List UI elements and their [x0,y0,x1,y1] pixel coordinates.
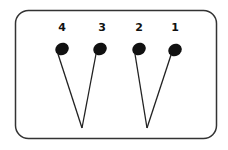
diagram-canvas: 4 3 2 1 [0,0,228,150]
note-head-1 [166,41,184,58]
note-label-2: 2 [135,21,143,34]
stem-note-4 [58,54,82,128]
note-label-4: 4 [58,21,66,34]
frame-border [16,11,217,139]
note-label-1: 1 [171,21,179,34]
stem-note-3 [82,54,96,128]
stem-note-2 [135,54,147,128]
stem-note-1 [147,55,171,128]
note-head-3 [91,40,109,57]
note-head-4 [53,40,71,57]
note-head-2 [130,40,148,57]
note-label-3: 3 [98,21,106,34]
